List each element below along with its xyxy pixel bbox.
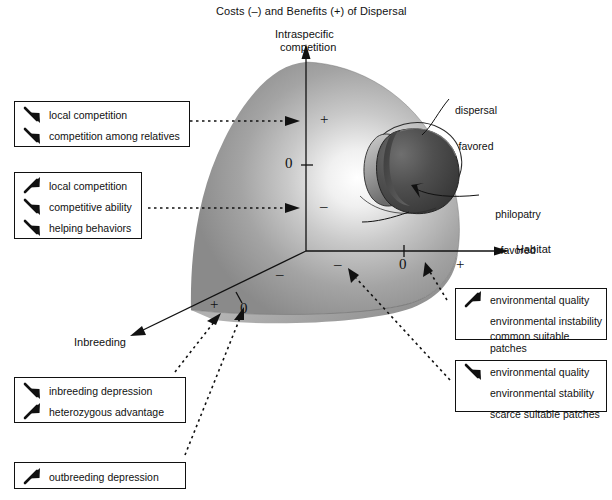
annotation-label: common suitable patches	[490, 330, 606, 354]
down-right-arrow	[15, 218, 49, 237]
vertical-tick-plus: +	[320, 111, 328, 128]
annotation-row: local competition	[15, 175, 141, 196]
annotation-label: local competition	[49, 180, 127, 192]
up-right-arrow	[15, 467, 49, 486]
down-right-arrow	[15, 126, 49, 145]
diagram-root: Costs (–) and Benefits (+) of Dispersal …	[0, 0, 612, 500]
annotation-box-intraspecific-competition-positive: local competitioncompetition among relat…	[14, 101, 190, 147]
down-right-arrow	[15, 105, 49, 124]
annotation-box-inbreeding-negative: outbreeding depression	[14, 462, 186, 489]
vertical-tick-zero: 0	[285, 155, 293, 172]
annotation-label: environmental instability	[490, 315, 602, 327]
up-right-arrow	[23, 467, 42, 486]
callout-dispersal-line1: dispersal	[441, 104, 511, 116]
annotation-label: competition among relatives	[49, 130, 180, 142]
down-right-arrow	[15, 381, 49, 400]
down-right-arrow	[464, 362, 483, 381]
annotation-box-habitat-negative: environmental qualityenvironmental stabi…	[455, 360, 607, 412]
page-title: Costs (–) and Benefits (+) of Dispersal	[216, 5, 407, 17]
annotation-row: environmental stability	[456, 382, 606, 403]
vertical-tick-minus: –	[320, 198, 328, 215]
annotation-row: heterozygous advantage	[15, 401, 185, 422]
annotation-row: outbreeding depression	[15, 466, 185, 487]
annotation-label: scarce suitable patches	[490, 408, 600, 420]
callout-philopatry-line1: philopatry	[481, 208, 555, 220]
annotation-label: inbreeding depression	[49, 385, 152, 397]
vertical-axis-label-line1: Intraspecific	[275, 28, 334, 40]
annotation-row: competition among relatives	[15, 125, 189, 146]
down-right-arrow	[23, 126, 42, 145]
up-right-arrow	[456, 290, 490, 309]
callout-dispersal-favored: dispersal favored	[441, 80, 511, 176]
up-right-arrow	[23, 176, 42, 195]
annotation-row: environmental quality	[456, 361, 606, 382]
horizontal-tick-minus: –	[334, 256, 342, 273]
annotation-row: helping behaviors	[15, 217, 141, 238]
up-right-arrow	[23, 402, 42, 421]
annotation-row: environmental instability	[456, 310, 606, 331]
callout-philopatry-favored: philopatry favored	[481, 184, 555, 280]
annotation-label: environmental quality	[490, 366, 589, 378]
callout-dispersal-line2: favored	[441, 140, 511, 152]
callout-philopatry-line2: favored	[481, 244, 555, 256]
annotation-label: outbreeding depression	[49, 471, 159, 483]
down-right-arrow	[23, 381, 42, 400]
depth-tick-plus: +	[210, 296, 218, 313]
depth-tick-minus: –	[276, 266, 284, 283]
annotation-label: environmental quality	[490, 294, 589, 306]
annotation-row: inbreeding depression	[15, 380, 185, 401]
depth-tick-zero: 0	[240, 300, 248, 317]
horizontal-tick-plus: +	[456, 256, 464, 273]
annotation-box-inbreeding-positive: inbreeding depressionheterozygous advant…	[14, 377, 186, 423]
vertical-axis-label-line2: competition	[280, 41, 336, 53]
annotation-box-habitat-positive: environmental qualityenvironmental insta…	[455, 288, 607, 340]
annotation-label: competitive ability	[49, 201, 132, 213]
up-right-arrow	[15, 176, 49, 195]
annotation-label: helping behaviors	[49, 222, 131, 234]
annotation-row: scarce suitable patches	[456, 403, 606, 424]
annotation-label: environmental stability	[490, 387, 594, 399]
annotation-row: local competition	[15, 104, 189, 125]
up-right-arrow	[464, 290, 483, 309]
annotation-label: local competition	[49, 109, 127, 121]
down-right-arrow	[23, 105, 42, 124]
down-right-arrow	[456, 362, 490, 381]
annotation-row: competitive ability	[15, 196, 141, 217]
down-right-arrow	[23, 197, 42, 216]
annotation-row: common suitable patches	[456, 331, 606, 352]
annotation-row: environmental quality	[456, 289, 606, 310]
annotation-label: heterozygous advantage	[49, 406, 164, 418]
horizontal-tick-zero: 0	[399, 256, 407, 273]
down-right-arrow	[23, 218, 42, 237]
up-right-arrow	[15, 402, 49, 421]
annotation-box-intraspecific-competition-negative: local competitioncompetitive abilityhelp…	[14, 172, 142, 239]
down-right-arrow	[15, 197, 49, 216]
depth-axis-label: Inbreeding	[74, 336, 126, 348]
